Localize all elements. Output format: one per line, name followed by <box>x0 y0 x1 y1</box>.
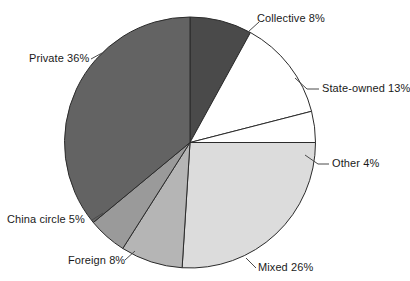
pie-chart-figure: Collective 8% State-owned 13% Other 4% M… <box>0 0 410 281</box>
slice-label-state-owned: State-owned 13% <box>322 82 410 95</box>
pie-chart-canvas <box>0 0 410 281</box>
slice-label-collective: Collective 8% <box>257 12 325 25</box>
slice-label-private: Private 36% <box>29 52 89 65</box>
slice-label-other: Other 4% <box>332 157 379 170</box>
slice-label-china-circle: China circle 5% <box>7 213 85 226</box>
slice-label-foreign: Foreign 8% <box>68 254 125 267</box>
leader-line-mixed <box>246 258 256 268</box>
pie-slices-group <box>64 17 315 268</box>
slice-label-mixed: Mixed 26% <box>258 261 313 274</box>
pie-slice-mixed[interactable] <box>182 143 315 268</box>
